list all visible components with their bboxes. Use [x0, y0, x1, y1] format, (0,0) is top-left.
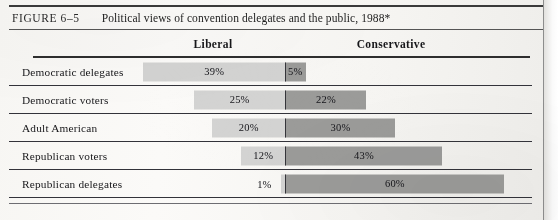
page-edge-margin: [544, 0, 558, 220]
bar-track: 39%5%: [0, 58, 543, 86]
liberal-bar: 39%: [143, 63, 285, 82]
liberal-value: 12%: [253, 151, 273, 162]
column-header-conservative: Conservative: [357, 38, 426, 50]
conservative-bar: 60%: [285, 175, 504, 194]
chart-rows: Democratic delegates39%5%Democratic vote…: [0, 58, 543, 198]
liberal-value: 39%: [204, 67, 224, 78]
conservative-bar: 30%: [285, 119, 395, 138]
figure-title: Political views of convention delegates …: [102, 12, 391, 24]
bar-track: 25%22%: [0, 86, 543, 114]
liberal-value: 25%: [230, 95, 250, 106]
conservative-bar: 5%: [285, 63, 306, 82]
chart-row: Adult American20%30%: [0, 114, 543, 142]
figure-caption: FIGURE 6–5 Political views of convention…: [12, 8, 542, 28]
conservative-value: 60%: [385, 179, 405, 190]
liberal-bar: 25%: [194, 91, 285, 110]
liberal-bar: 12%: [241, 147, 285, 166]
column-headers: Liberal Conservative: [0, 38, 543, 54]
conservative-value: 5%: [288, 67, 302, 78]
title-rule-top: [9, 5, 544, 7]
conservative-bar: 43%: [285, 147, 442, 166]
figure-number: FIGURE 6–5: [12, 12, 80, 24]
column-header-liberal: Liberal: [194, 38, 233, 50]
bar-track: 12%43%: [0, 142, 543, 170]
liberal-value: 1%: [257, 179, 271, 190]
figure-page: FIGURE 6–5 Political views of convention…: [0, 0, 558, 220]
row-rule: [9, 197, 532, 198]
conservative-value: 43%: [354, 151, 374, 162]
chart-row: Democratic delegates39%5%: [0, 58, 543, 86]
liberal-value: 20%: [239, 123, 259, 134]
chart-row: Republican delegates1%60%: [0, 170, 543, 198]
bar-track: 1%60%: [0, 170, 543, 198]
conservative-value: 22%: [316, 95, 336, 106]
chart-row: Democratic voters25%22%: [0, 86, 543, 114]
conservative-value: 30%: [331, 123, 351, 134]
title-rule-bottom: [9, 29, 544, 30]
liberal-bar: 20%: [212, 119, 285, 138]
figure-rule-bottom: [9, 203, 532, 204]
bar-track: 20%30%: [0, 114, 543, 142]
chart-row: Republican voters12%43%: [0, 142, 543, 170]
conservative-bar: 22%: [285, 91, 366, 110]
